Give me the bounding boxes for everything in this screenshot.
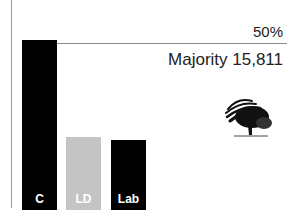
bar-label: C bbox=[35, 192, 44, 206]
bar-ld: LD bbox=[66, 137, 101, 210]
fifty-percent-line bbox=[56, 43, 287, 44]
tree-logo-icon bbox=[222, 95, 274, 140]
bar-c: C bbox=[22, 40, 57, 210]
bar-label: Lab bbox=[118, 192, 139, 206]
majority-annotation: Majority 15,811 bbox=[168, 50, 283, 70]
bar-lab: Lab bbox=[111, 140, 146, 210]
fifty-percent-label: 50% bbox=[253, 23, 283, 40]
y-axis-line bbox=[11, 0, 12, 208]
bar-label: LD bbox=[76, 192, 92, 206]
